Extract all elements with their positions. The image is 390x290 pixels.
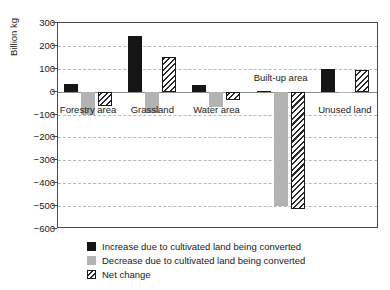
bar-decrease [274,92,288,206]
legend-item[interactable]: Net change [87,267,377,281]
legend-item[interactable]: Decrease due to cultivated land being co… [87,253,377,267]
legend-swatch-net-icon [87,270,96,279]
bar-increase [192,85,206,91]
y-tick-label: −600 [15,223,55,234]
legend-item[interactable]: Increase due to cultivated land being co… [87,239,377,253]
plot-area: Forestry areaGrasslandWater areaBuilt-up… [57,22,378,228]
legend-label: Decrease due to cultivated land being co… [102,255,305,266]
chart-figure: Billion kg 3002001000−100−200−300−400−50… [0,0,390,290]
bar-group [251,23,315,227]
category-label: Grassland [131,104,174,115]
y-tick-label: 0 [15,85,55,96]
y-tick-mark [52,228,57,229]
bar-net [162,57,176,92]
bar-increase [257,91,271,93]
chart-legend: Increase due to cultivated land being co… [87,239,377,281]
y-tick-label: −200 [15,131,55,142]
bar-net [355,70,369,92]
bar-increase [321,69,335,92]
category-label: Forestry area [60,104,117,115]
category-label: Unused land [318,104,371,115]
y-tick-label: 300 [15,17,55,28]
y-tick-label: −300 [15,154,55,165]
category-label: Built-up area [251,71,311,84]
y-tick-label: −100 [15,108,55,119]
y-tick-label: −400 [15,177,55,188]
bar-increase [64,84,78,92]
legend-label: Increase due to cultivated land being co… [102,241,301,252]
bar-group [58,23,122,227]
bar-group [122,23,186,227]
bar-net [291,92,305,209]
bar-group [315,23,379,227]
legend-label: Net change [102,269,151,280]
y-tick-label: −500 [15,200,55,211]
legend-swatch-decrease-icon [87,256,96,265]
category-label: Water area [193,104,240,115]
y-tick-label: 200 [15,39,55,50]
legend-swatch-increase-icon [87,242,96,251]
bar-decrease [338,92,352,94]
bar-increase [128,36,142,92]
bar-net [226,92,240,100]
bar-group [186,23,250,227]
y-tick-label: 100 [15,62,55,73]
